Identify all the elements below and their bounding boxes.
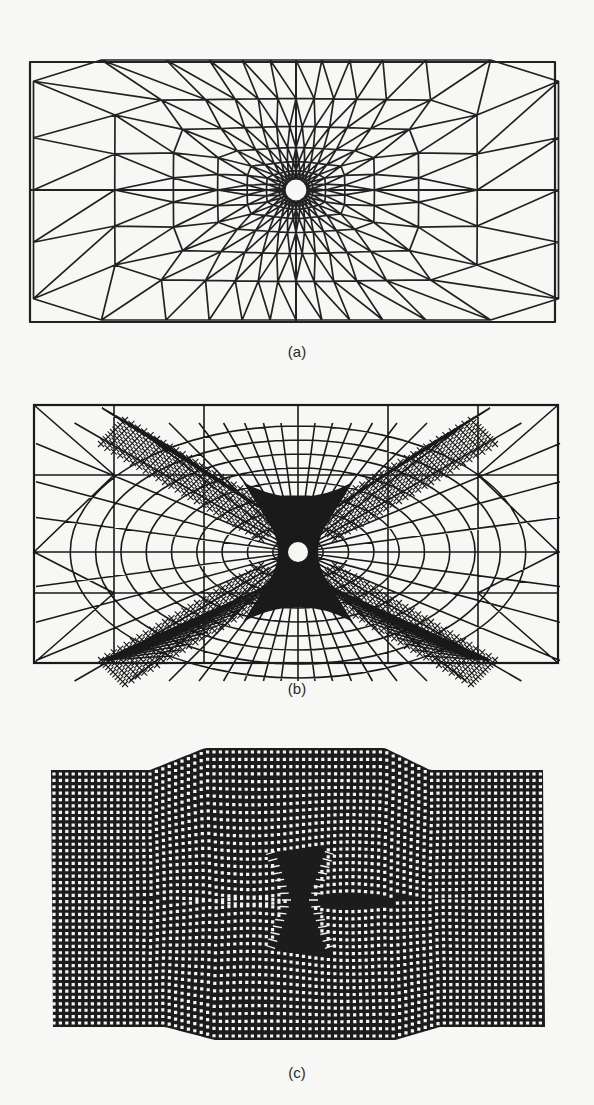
panel-c: (c): [0, 0, 594, 1105]
mesh-c-deformed-grid: [0, 0, 594, 1105]
caption-c: (c): [0, 1064, 594, 1081]
